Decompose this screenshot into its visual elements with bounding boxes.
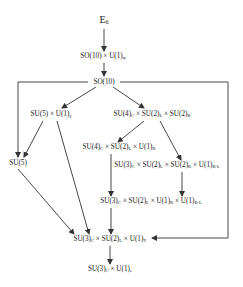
label-part: SU(3) [100, 197, 118, 205]
edge-so10-su4su2su2 [113, 87, 144, 108]
label-sub: e [130, 268, 132, 273]
label-part: × U(1) [131, 143, 152, 151]
node-su5-u1chi-sub: χ [69, 113, 71, 118]
node-so10: SO(10) [92, 78, 115, 87]
edge-su4su2su2-lr [160, 121, 181, 160]
label-sub: Y [143, 238, 146, 243]
edge-su5u1-su5 [24, 121, 43, 157]
label-part: × U(1) [149, 197, 170, 205]
label-part: × U(1) [191, 161, 212, 169]
label-part: SU(4) [114, 110, 132, 118]
label-part: SU(3) [114, 161, 132, 169]
label-part: × SU(2) [135, 161, 160, 169]
edge-su4su2su2-su4su2u1 [118, 121, 144, 142]
node-so10-u1psi: SO(10) × U(1)ψ [79, 52, 126, 63]
label-part: × SU(2) [94, 235, 119, 243]
node-su3c-u1em: SU(3)C × U(1)e [87, 265, 133, 276]
node-su5-u1chi-label: SU(5) × U(1) [31, 110, 70, 118]
label-part: × U(1) [122, 235, 143, 243]
label-part: SU(3) [73, 235, 91, 243]
edge-su5-sm [18, 169, 74, 234]
label-part: × SU(2) [103, 143, 128, 151]
node-su5-label: SU(5) [9, 159, 27, 167]
label-part: SU(3) [88, 265, 106, 273]
node-su4c-su2l-u1r: SU(4)C × SU(2)L × U(1)R [82, 143, 157, 154]
edge-so10-su5u1 [62, 87, 96, 108]
node-su4c-su2l-su2r: SU(4)C × SU(2)L × SU(2)R [113, 110, 192, 121]
node-su5-u1chi: SU(5) × U(1)χ [30, 110, 73, 121]
edge-su5u1-sm [57, 121, 89, 234]
node-e6-sub: 6 [106, 19, 109, 25]
label-part: × SU(2) [134, 110, 159, 118]
label-part: × U(1) [109, 265, 130, 273]
node-su3c-su2l-u1r-u1bl: SU(3)C × SU(2)L × U(1)R × U(1)B-L [99, 197, 203, 208]
label-part: × SU(2) [163, 161, 188, 169]
label-sub: R [152, 146, 155, 151]
node-so10-label: SO(10) [93, 78, 114, 86]
node-standard-model: SU(3)C × SU(2)L × U(1)Y [72, 235, 147, 246]
node-so10-u1psi-sub: ψ [123, 55, 126, 60]
label-part: × SU(2) [121, 197, 146, 205]
node-su5: SU(5) [8, 159, 28, 168]
label-sub: B-L [194, 200, 201, 205]
label-part: × U(1) [173, 197, 194, 205]
label-sub: R [187, 113, 190, 118]
label-part: SU(4) [83, 143, 101, 151]
node-so10-u1psi-label: SO(10) × U(1) [80, 52, 122, 60]
node-e6: E6 [98, 15, 109, 28]
node-left-right-symmetric: SU(3)C × SU(2)L × SU(2)R × U(1)B-L [113, 161, 221, 172]
label-sub: B-L [212, 164, 219, 169]
label-part: × SU(2) [162, 110, 187, 118]
